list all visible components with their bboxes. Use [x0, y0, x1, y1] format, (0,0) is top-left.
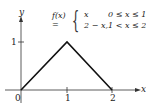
case-expr: x [84, 10, 102, 19]
case-cond: 1 < x ≤ 2 [108, 21, 146, 30]
function-label: f(x) = [52, 11, 66, 29]
y-axis-label: y [19, 8, 24, 17]
x-axis-label: x [141, 85, 146, 94]
case-row: x 0 ≤ x ≤ 1 [84, 10, 146, 19]
x-tick-label-0: 0 [15, 94, 21, 103]
case-expr: 2 − x, [84, 21, 102, 30]
function-definition: f(x) = { x 0 ≤ x ≤ 1 2 − x, 1 < x ≤ 2 [52, 8, 146, 32]
x-tick-label-1: 1 [65, 94, 71, 103]
brace-icon: { [72, 8, 80, 32]
y-tick-label-1: 1 [11, 38, 17, 47]
case-row: 2 − x, 1 < x ≤ 2 [84, 21, 146, 30]
case-cond: 0 ≤ x ≤ 1 [108, 10, 146, 19]
piecewise-cases: x 0 ≤ x ≤ 1 2 − x, 1 < x ≤ 2 [84, 10, 146, 30]
x-tick-label-2: 2 [110, 94, 116, 103]
function-line [21, 42, 112, 90]
